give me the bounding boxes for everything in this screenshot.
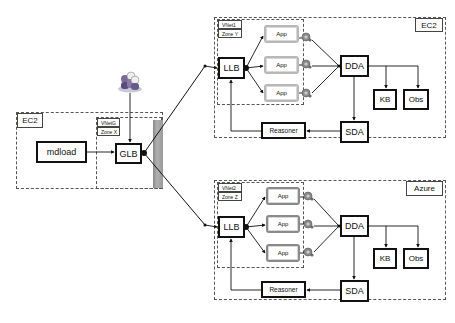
connection-wires xyxy=(0,0,455,323)
